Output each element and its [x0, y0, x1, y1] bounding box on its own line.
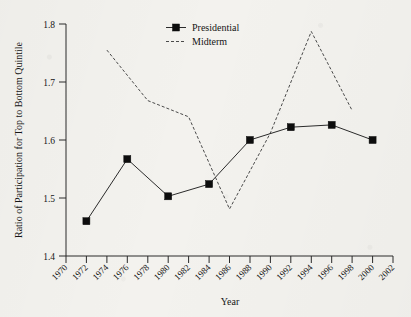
x-tick-label: 1980 [152, 262, 172, 282]
series-marker-presidential [246, 137, 253, 144]
x-tick-label: 1998 [336, 262, 356, 282]
y-axis-tick-labels: 1.8 1.7 1.6 1.5 1.4 [43, 20, 55, 262]
x-tick-label: 1990 [254, 262, 274, 282]
x-tick-label: 1972 [70, 262, 90, 282]
x-tick-label: 1986 [213, 262, 233, 282]
x-axis-title: Year [221, 296, 240, 307]
legend-item-midterm: Midterm [166, 36, 227, 47]
legend-item-presidential: Presidential [166, 22, 239, 33]
x-tick-label: 1974 [91, 262, 111, 282]
legend-label-midterm: Midterm [192, 36, 227, 47]
x-tick-label: 1970 [50, 262, 70, 282]
x-tick-label: 1976 [111, 262, 131, 282]
x-tick-label: 1996 [315, 262, 335, 282]
x-tick-label: 1994 [295, 262, 315, 282]
chart-legend: Presidential Midterm [166, 22, 239, 47]
chart-figure: 1.8 1.7 1.6 1.5 1.4 1970 [0, 0, 411, 317]
x-axis-ticks [66, 256, 393, 263]
y-tick-label: 1.8 [43, 20, 55, 30]
x-tick-label: 1992 [274, 262, 294, 282]
series-markers-presidential [83, 121, 376, 224]
x-tick-label: 2002 [377, 262, 397, 282]
x-tick-label: 2000 [356, 262, 376, 282]
series-marker-presidential [206, 181, 213, 188]
y-tick-label: 1.6 [43, 136, 55, 146]
line-chart-plot: 1.8 1.7 1.6 1.5 1.4 1970 [0, 0, 411, 317]
series-marker-presidential [124, 156, 131, 163]
series-marker-presidential [369, 137, 376, 144]
legend-label-presidential: Presidential [192, 22, 239, 33]
series-marker-presidential [165, 193, 172, 200]
x-tick-label: 1984 [193, 262, 213, 282]
y-axis-title: Ratio of Participation for Top to Bottom… [13, 41, 24, 238]
x-axis-tick-labels: 1970 1972 1974 1976 1978 1980 1982 1984 … [50, 262, 397, 282]
series-line-presidential [86, 125, 372, 221]
x-tick-label: 1978 [131, 262, 151, 282]
legend-marker-square-icon [173, 24, 180, 31]
y-tick-label: 1.5 [43, 194, 55, 204]
x-tick-label: 1988 [234, 262, 254, 282]
x-tick-label: 1982 [172, 262, 192, 282]
series-marker-presidential [83, 218, 90, 225]
series-marker-presidential [287, 124, 294, 131]
y-tick-label: 1.4 [43, 252, 55, 262]
y-tick-label: 1.7 [43, 78, 55, 88]
series-marker-presidential [328, 121, 335, 128]
series-line-midterm [107, 32, 352, 210]
y-axis-ticks [59, 24, 66, 256]
